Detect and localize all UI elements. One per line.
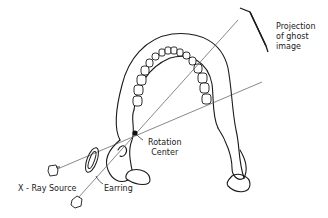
earring-icon bbox=[83, 146, 101, 174]
rotation-center-label: Rotation Center bbox=[148, 138, 181, 158]
projection-label: Projection of ghost image bbox=[276, 22, 316, 52]
mandible-outline bbox=[107, 34, 251, 192]
ghost-image-projection-bracket bbox=[240, 8, 268, 52]
teeth-right bbox=[171, 47, 211, 104]
xray-source-upper-icon bbox=[48, 165, 60, 176]
teeth-left bbox=[133, 47, 171, 106]
diagram-canvas: Projection of ghost image Rotation Cente… bbox=[0, 0, 328, 218]
xray-source-label: X - Ray Source bbox=[18, 184, 77, 194]
xray-source-lower-icon bbox=[71, 196, 82, 208]
rotation-center-dot bbox=[132, 130, 137, 135]
earring-label: Earring bbox=[104, 184, 133, 194]
